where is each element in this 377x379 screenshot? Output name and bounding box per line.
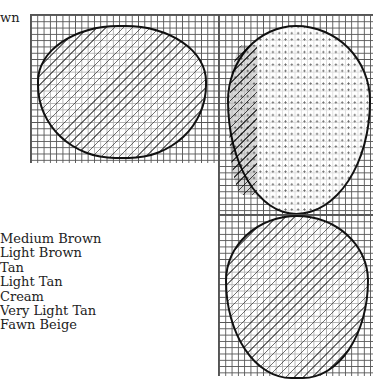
- chart-grid-left: [30, 14, 219, 163]
- partial-key-heading: wn: [0, 10, 20, 25]
- egg-motif-dark-edge: [229, 45, 257, 195]
- color-key-item: Light Tan: [0, 275, 101, 289]
- oval-motif-bottom: [225, 215, 369, 379]
- color-key-item: Medium Brown: [0, 232, 101, 246]
- color-key-item: Light Brown: [0, 246, 101, 260]
- chart-grid-right-bottom: [218, 214, 373, 376]
- color-key-item: Very Light Tan: [0, 304, 101, 318]
- color-key-item: Cream: [0, 290, 101, 304]
- chart-grid-right-top: [218, 14, 373, 215]
- color-key-item: Tan: [0, 261, 101, 275]
- color-key: Medium Brown Light Brown Tan Light Tan C…: [0, 232, 101, 333]
- oval-motif-left: [37, 25, 207, 159]
- color-key-item: Fawn Beige: [0, 318, 101, 332]
